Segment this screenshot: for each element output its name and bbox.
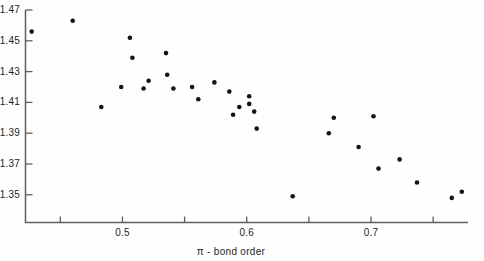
data-point	[460, 189, 465, 194]
plot-canvas	[0, 0, 484, 261]
data-point	[252, 109, 257, 114]
data-point	[164, 51, 169, 56]
data-point	[128, 35, 133, 40]
data-point	[254, 126, 259, 131]
scatter-plot-figure: π - bond order 1.471.451.431.411.391.371…	[0, 0, 484, 261]
data-point	[70, 19, 75, 24]
data-point	[231, 112, 236, 117]
data-point	[165, 72, 170, 77]
data-point	[332, 116, 337, 121]
data-point	[227, 89, 232, 94]
data-point	[450, 196, 455, 201]
data-point	[171, 86, 176, 91]
data-point	[119, 85, 124, 90]
data-point	[29, 29, 34, 34]
data-point	[247, 94, 252, 99]
data-point	[247, 102, 252, 107]
data-point	[99, 105, 104, 110]
data-point	[196, 97, 201, 102]
data-point	[130, 55, 135, 60]
axes-lines	[26, 10, 469, 223]
data-point	[190, 85, 195, 90]
data-point	[212, 80, 217, 85]
data-point	[376, 166, 381, 171]
data-point	[371, 114, 376, 119]
data-point	[415, 180, 420, 185]
data-point	[141, 86, 146, 91]
data-point	[146, 79, 151, 84]
data-point	[356, 145, 361, 150]
data-point	[237, 105, 242, 110]
data-point	[327, 131, 332, 136]
data-point	[290, 194, 295, 199]
data-point	[397, 157, 402, 162]
